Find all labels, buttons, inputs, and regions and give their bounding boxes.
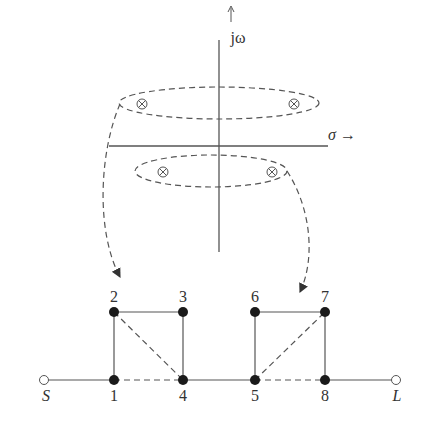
node-1	[109, 375, 119, 385]
axes	[109, 6, 328, 252]
node-label-8: 8	[321, 387, 329, 405]
node-label-6: 6	[251, 288, 259, 306]
solid-edges	[48, 312, 392, 380]
node-label-1: 1	[110, 387, 118, 405]
node-label-2: 2	[110, 288, 118, 306]
resonator-nodes	[109, 307, 330, 385]
circled-times-icon	[158, 167, 168, 177]
source-label: S	[42, 387, 50, 405]
node-label-5: 5	[251, 387, 259, 405]
node-8	[320, 375, 330, 385]
node-label-3: 3	[179, 288, 187, 306]
imag-axis-label: jω	[231, 29, 246, 47]
real-axis-label: σ →	[328, 126, 356, 144]
node-label-4: 4	[179, 387, 187, 405]
mapping-arrow-right	[287, 171, 309, 292]
node-5	[250, 375, 260, 385]
circled-times-icon	[137, 99, 147, 109]
mapping-arrow-left	[103, 104, 120, 277]
node-6	[250, 307, 260, 317]
node-3	[178, 307, 188, 317]
circled-times-icon	[289, 99, 299, 109]
diagram-canvas	[0, 0, 437, 425]
node-4	[178, 375, 188, 385]
node-2	[109, 307, 119, 317]
pole-markers	[137, 99, 299, 177]
dashed-edges	[114, 312, 325, 380]
load-node	[392, 376, 401, 385]
source-node	[40, 376, 49, 385]
node-label-7: 7	[321, 288, 329, 306]
circled-times-icon	[267, 167, 277, 177]
node-7	[320, 307, 330, 317]
load-label: L	[393, 387, 402, 405]
